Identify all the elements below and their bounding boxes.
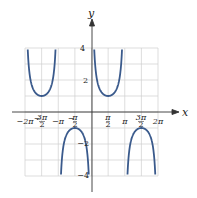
y-tick-2: 2	[83, 76, 88, 85]
x-tick-neg3pi2-den: 2	[39, 120, 44, 129]
y-tick-neg4: −4	[77, 171, 89, 180]
x-tick-neg2pi: −2π	[16, 117, 34, 126]
y-axis-arrow-icon	[90, 19, 95, 26]
x-tick-pi2-den: 2	[105, 120, 110, 129]
x-tick-negpi: −π	[52, 117, 65, 126]
csc-graph: x y 4 2 −2 −4 −2π − 3π 2 −π − π 2 π 2 π …	[0, 0, 197, 198]
x-axis-label: x	[182, 106, 189, 119]
x-tick-negpi2-den: 2	[72, 120, 77, 129]
x-tick-3pi2-den: 2	[138, 120, 143, 129]
x-axis-arrow-icon	[172, 110, 179, 115]
y-tick-neg2: −2	[77, 139, 89, 148]
x-tick-pi: π	[121, 117, 128, 126]
y-tick-4: 4	[80, 44, 85, 53]
y-axis-label: y	[87, 7, 95, 20]
x-tick-2pi: 2π	[152, 117, 164, 126]
